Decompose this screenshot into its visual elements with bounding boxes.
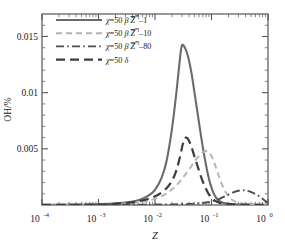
x-axis-ticks	[42, 14, 268, 205]
x-tick-label: 10	[256, 214, 266, 224]
y-tick-label: 0.015	[17, 32, 39, 42]
legend-label-3: χ=50 β Z″²–80	[105, 41, 151, 51]
y-axis-title: OH/%	[3, 97, 13, 121]
chart-legend: χ=50 β Z″²–1χ=50 β Z″²–10χ=50 β Z″²–80χ=…	[56, 15, 151, 65]
oh-mass-fraction-vs-mixture-fraction-chart: 10-410-310-210-1100 0.0050.010.015 χ=50 …	[0, 0, 285, 247]
x-tick-exponent: 0	[270, 211, 273, 218]
series-line-1	[42, 45, 268, 205]
y-tick-label: 0.005	[17, 144, 39, 154]
plot-border	[42, 14, 268, 205]
y-tick-label: 0.01	[21, 88, 38, 98]
y-axis-ticks	[42, 25, 268, 194]
x-tick-exponent: -1	[213, 211, 218, 218]
x-axis-tick-labels: 10-410-310-210-1100	[30, 211, 273, 224]
axis-titles: ZOH/%	[3, 97, 158, 241]
series-line-4	[42, 138, 268, 205]
legend-label-2: χ=50 β Z″²–10	[105, 28, 151, 38]
legend-label-1: χ=50 β Z″²–1	[105, 15, 147, 25]
x-tick-label: 10	[143, 214, 153, 224]
x-tick-exponent: -4	[44, 211, 50, 218]
legend-label-4: χ=50 δ	[105, 56, 128, 65]
x-tick-exponent: -2	[157, 211, 162, 218]
plot-frame	[42, 14, 268, 205]
x-tick-label: 10	[200, 214, 210, 224]
x-tick-exponent: -3	[100, 211, 105, 218]
data-curves	[42, 45, 268, 205]
x-tick-label: 10	[30, 214, 40, 224]
chart-container: 10-410-310-210-1100 0.0050.010.015 χ=50 …	[0, 0, 285, 247]
x-tick-label: 10	[87, 214, 97, 224]
x-axis-title: Z	[152, 230, 158, 241]
y-axis-tick-labels: 0.0050.010.015	[17, 32, 39, 154]
